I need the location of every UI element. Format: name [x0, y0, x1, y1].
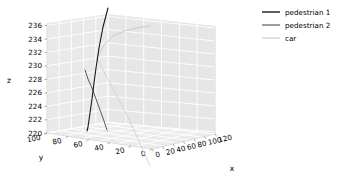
x-tick-label: 120 — [217, 132, 233, 144]
z-axis-label: z — [7, 76, 11, 85]
z-tick-label: 226 — [28, 88, 42, 97]
x-tick-label: 80 — [196, 139, 207, 150]
z-tick-label: 224 — [28, 102, 42, 111]
z-tick-label: 230 — [28, 61, 42, 70]
x-tick-label: 20 — [165, 146, 176, 157]
legend-label-pedestrian-1: pedestrian 1 — [285, 8, 330, 17]
x-tick-label: 0 — [154, 150, 161, 160]
plot-3d-canvas: 236 234 232 230 228 226 224 222 220 100 … — [0, 0, 342, 196]
figure-root: 236 234 232 230 228 226 224 222 220 100 … — [0, 0, 342, 196]
x-tick-label: 60 — [186, 141, 197, 152]
legend-label-car: car — [285, 34, 296, 43]
z-tick-label: 232 — [28, 48, 42, 57]
y-tick-label: 80 — [52, 136, 63, 147]
y-tick-label: 40 — [94, 142, 105, 153]
y-tick-label: 60 — [73, 139, 84, 150]
y-tick-label: 20 — [115, 145, 126, 156]
z-tick-label: 236 — [28, 21, 42, 30]
z-tick-label: 228 — [28, 75, 42, 84]
legend[interactable]: pedestrian 1 pedestrian 2 car — [262, 8, 330, 43]
x-tick-label: 40 — [175, 144, 186, 155]
z-tick-labels: 236 234 232 230 228 226 224 222 220 — [28, 21, 42, 138]
z-tick-label: 234 — [28, 35, 42, 44]
x-axis-label: x — [230, 164, 235, 173]
legend-label-pedestrian-2: pedestrian 2 — [285, 21, 330, 30]
y-tick-label: 100 — [26, 133, 42, 145]
pane-yz-left — [47, 14, 108, 133]
y-axis-label: y — [39, 153, 44, 162]
z-tick-label: 222 — [28, 115, 42, 124]
